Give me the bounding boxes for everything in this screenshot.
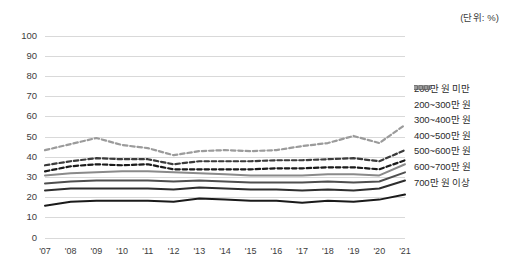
x-axis-tick-label: '12 — [168, 246, 180, 256]
legend-item[interactable]: 600~700만 원 — [414, 160, 471, 173]
legend-item-label: 600~700만 원 — [414, 161, 471, 172]
x-axis-tick-label: '16 — [271, 246, 283, 256]
legend-item[interactable]: 300~400만 원 — [414, 113, 471, 126]
x-axis-tick-label: '20 — [373, 246, 385, 256]
legend-item[interactable]: 200~300만 원 — [414, 98, 471, 111]
series-line — [45, 150, 405, 165]
y-axis-tick-label: 60 — [26, 110, 37, 121]
series-line — [45, 160, 405, 171]
x-axis-tick-label: '10 — [116, 246, 128, 256]
x-axis-tick-label: '18 — [322, 246, 334, 256]
chart-container: (단위: %) 0102030405060708090100'07'08'09'… — [0, 0, 510, 264]
legend-item-label: 300~400만 원 — [414, 114, 471, 125]
y-axis-tick-label: 70 — [26, 90, 37, 101]
x-axis-tick-label: '13 — [193, 246, 205, 256]
y-axis-tick-label: 0 — [32, 232, 37, 243]
x-axis-tick-label: '21 — [399, 246, 411, 256]
y-axis-tick-label: 20 — [26, 191, 37, 202]
series-line — [45, 195, 405, 206]
legend-item-label: 200~300만 원 — [414, 99, 471, 110]
x-axis-tick-label: '11 — [142, 246, 153, 256]
chart-legend: 200만 원 미만200~300만 원300~400만 원400~500만 원5… — [414, 82, 471, 189]
x-axis-tick-label: '19 — [348, 246, 360, 256]
y-axis-tick-label: 30 — [26, 171, 37, 182]
y-axis-tick-label: 100 — [21, 30, 37, 41]
x-axis-tick-label: '14 — [219, 246, 231, 256]
y-axis-tick-label: 90 — [26, 50, 37, 61]
legend-item-label: 500~600만 원 — [414, 145, 471, 156]
legend-item-label: 700만 원 이상 — [414, 177, 470, 188]
x-axis-tick-label: '08 — [65, 246, 77, 256]
legend-item[interactable]: 700만 원 이상 — [414, 176, 471, 189]
legend-item[interactable]: 500~600만 원 — [414, 144, 471, 157]
legend-item[interactable]: 400~500만 원 — [414, 129, 471, 142]
series-line — [45, 125, 405, 155]
x-axis-tick-label: '15 — [245, 246, 257, 256]
y-axis-tick-label: 80 — [26, 70, 37, 81]
legend-swatch-icon — [414, 82, 431, 93]
x-axis-tick-label: '07 — [39, 246, 51, 256]
y-axis-tick-label: 10 — [26, 211, 37, 222]
legend-item-label: 400~500만 원 — [414, 130, 471, 141]
x-axis-tick-label: '09 — [91, 246, 103, 256]
x-axis-tick-label: '17 — [296, 246, 308, 256]
y-axis-tick-label: 50 — [26, 131, 37, 142]
series-line — [45, 164, 405, 175]
y-axis-tick-label: 40 — [26, 151, 37, 162]
